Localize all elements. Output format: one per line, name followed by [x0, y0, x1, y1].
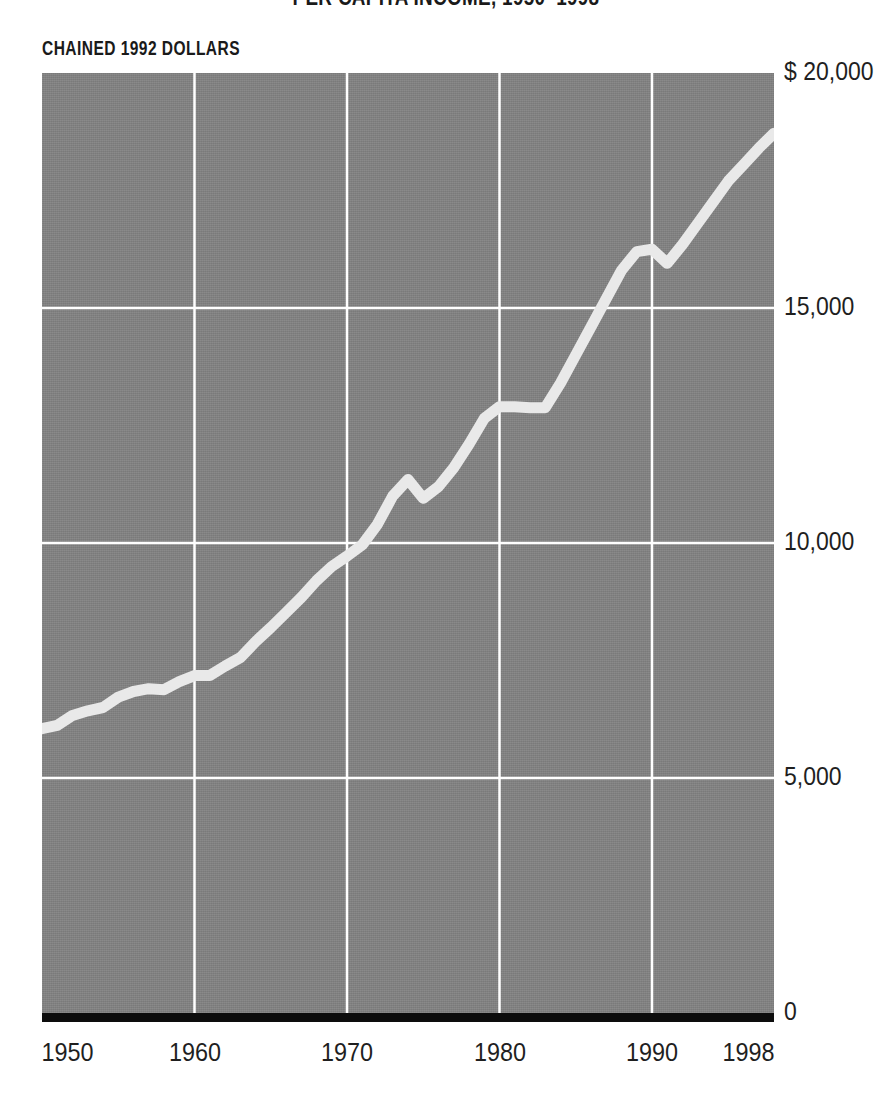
x-tick-label-1960: 1960: [154, 1037, 235, 1068]
x-tick-label-1998: 1998: [694, 1037, 775, 1068]
x-tick-label-1970: 1970: [307, 1037, 388, 1068]
y-tick-label-0: 0: [784, 997, 797, 1026]
horizontal-gridlines: [42, 308, 774, 778]
y-tick-label-20000: $ 20,000: [784, 57, 874, 86]
x-tick-label-1980: 1980: [459, 1037, 540, 1068]
y-tick-label-15000: 15,000: [784, 292, 854, 321]
page-title: PER CAPITA INCOME, 1950–1998: [80, 0, 811, 11]
chart-title-clipped: PER CAPITA INCOME, 1950–1998: [0, 0, 892, 14]
x-axis-baseline: [42, 1013, 774, 1022]
y-tick-label-5000: 5,000: [784, 762, 842, 791]
line-chart-svg: [42, 73, 774, 1013]
units-caption: CHAINED 1992 DOLLARS: [42, 36, 240, 60]
y-tick-label-10000: 10,000: [784, 527, 854, 556]
data-line-series-0: [42, 133, 774, 728]
plot-area: [42, 73, 774, 1013]
x-tick-label-1990: 1990: [612, 1037, 693, 1068]
x-tick-label-1950: 1950: [42, 1037, 123, 1068]
